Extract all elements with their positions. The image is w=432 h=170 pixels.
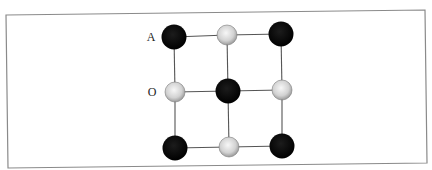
- grey-atom: [165, 82, 185, 102]
- black-atom: [269, 22, 294, 47]
- labels: AO: [147, 30, 157, 99]
- label-a: A: [147, 30, 156, 44]
- black-atom: [270, 134, 295, 159]
- grey-atom: [217, 25, 237, 45]
- lattice-diagram: AO: [0, 0, 432, 170]
- grey-atom: [219, 137, 239, 157]
- black-atom: [163, 136, 188, 161]
- black-atom: [162, 25, 187, 50]
- black-atom: [216, 79, 241, 104]
- atoms: [162, 22, 295, 161]
- label-o: O: [148, 85, 157, 99]
- grey-atom: [272, 80, 292, 100]
